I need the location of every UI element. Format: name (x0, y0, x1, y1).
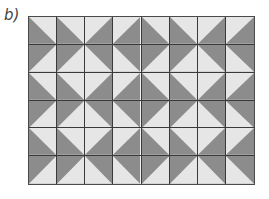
half-square-triangle-icon (170, 101, 197, 128)
half-square-triangle-icon (226, 73, 254, 100)
tile-cell (142, 128, 170, 156)
half-square-triangle-icon (198, 73, 225, 100)
tile-cell (142, 101, 170, 129)
half-square-triangle-icon (142, 73, 169, 100)
half-square-triangle-icon (85, 156, 112, 184)
tile-cell (29, 156, 57, 184)
half-square-triangle-icon (57, 128, 84, 155)
tile-cell (198, 128, 226, 156)
half-square-triangle-icon (85, 73, 112, 100)
half-square-triangle-icon (142, 17, 169, 44)
tile-cell (57, 45, 85, 73)
tile-cell (170, 45, 198, 73)
tile-cell (29, 45, 57, 73)
tile-cell (142, 73, 170, 101)
half-square-triangle-icon (113, 156, 140, 184)
tile-cell (113, 128, 141, 156)
half-square-triangle-icon (142, 156, 169, 184)
tile-cell (170, 156, 198, 184)
half-square-triangle-icon (113, 45, 140, 72)
tile-cell (142, 45, 170, 73)
tile-cell (85, 17, 113, 45)
half-square-triangle-icon (113, 128, 140, 155)
half-square-triangle-icon (85, 101, 112, 128)
tile-cell (198, 17, 226, 45)
half-square-triangle-icon (198, 17, 225, 44)
half-square-triangle-icon (85, 17, 112, 44)
tile-cell (170, 128, 198, 156)
half-square-triangle-icon (29, 45, 56, 72)
tile-cell (198, 156, 226, 184)
tile-cell (85, 101, 113, 129)
tile-cell (170, 101, 198, 129)
half-square-triangle-icon (57, 156, 84, 184)
half-square-triangle-icon (198, 128, 225, 155)
half-square-triangle-icon (57, 101, 84, 128)
half-square-triangle-icon (142, 128, 169, 155)
tile-cell (113, 101, 141, 129)
half-square-triangle-icon (113, 17, 140, 44)
tile-cell (226, 101, 254, 129)
tile-cell (113, 17, 141, 45)
half-square-triangle-icon (57, 17, 84, 44)
tile-cell (85, 128, 113, 156)
half-square-triangle-icon (29, 156, 56, 184)
half-square-triangle-icon (198, 101, 225, 128)
half-square-triangle-icon (142, 101, 169, 128)
half-square-triangle-icon (170, 156, 197, 184)
tile-cell (198, 73, 226, 101)
half-square-triangle-icon (170, 73, 197, 100)
tile-cell (29, 17, 57, 45)
tile-cell (198, 101, 226, 129)
tile-cell (57, 156, 85, 184)
tile-cell (57, 128, 85, 156)
tile-cell (113, 73, 141, 101)
tile-cell (142, 156, 170, 184)
half-square-triangle-icon (198, 156, 225, 184)
half-square-triangle-icon (29, 128, 56, 155)
tile-cell (85, 156, 113, 184)
tile-cell (29, 101, 57, 129)
half-square-triangle-icon (226, 17, 254, 44)
tile-cell (226, 156, 254, 184)
tile-cell (29, 128, 57, 156)
half-square-triangle-icon (29, 73, 56, 100)
half-square-triangle-icon (170, 45, 197, 72)
tile-cell (226, 45, 254, 73)
tile-cell (226, 128, 254, 156)
half-square-triangle-icon (226, 101, 254, 128)
half-square-triangle-icon (57, 73, 84, 100)
half-square-triangle-icon (226, 45, 254, 72)
half-square-triangle-icon (57, 45, 84, 72)
tile-cell (57, 101, 85, 129)
triangle-tile-grid (28, 16, 255, 185)
tile-cell (85, 73, 113, 101)
figure-label: b) (4, 6, 19, 24)
tile-cell (170, 17, 198, 45)
half-square-triangle-icon (226, 128, 254, 155)
tile-cell (113, 156, 141, 184)
half-square-triangle-icon (29, 101, 56, 128)
tile-cell (29, 73, 57, 101)
half-square-triangle-icon (170, 128, 197, 155)
tile-cell (57, 73, 85, 101)
half-square-triangle-icon (170, 17, 197, 44)
half-square-triangle-icon (113, 101, 140, 128)
tile-cell (57, 17, 85, 45)
half-square-triangle-icon (85, 128, 112, 155)
tile-cell (226, 17, 254, 45)
tile-cell (198, 45, 226, 73)
half-square-triangle-icon (29, 17, 56, 44)
half-square-triangle-icon (85, 45, 112, 72)
tile-cell (170, 73, 198, 101)
half-square-triangle-icon (113, 73, 140, 100)
tile-cell (142, 17, 170, 45)
tile-cell (113, 45, 141, 73)
tile-cell (226, 73, 254, 101)
tile-cell (85, 45, 113, 73)
half-square-triangle-icon (142, 45, 169, 72)
half-square-triangle-icon (198, 45, 225, 72)
half-square-triangle-icon (226, 156, 254, 184)
